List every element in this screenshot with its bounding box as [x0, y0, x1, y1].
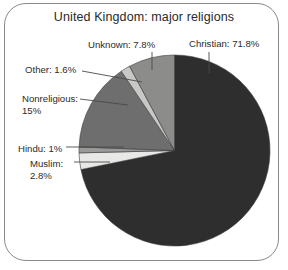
slice-label-muslim-line2: 2.8%	[30, 170, 82, 182]
slice-label-nonreligious-line2: 15%	[22, 105, 94, 117]
slice-label-nonreligious-line1: Nonreligious:	[22, 93, 94, 105]
slice-label-nonreligious: Nonreligious: 15%	[22, 93, 94, 116]
slice-label-christian: Christian: 71.8%	[189, 38, 259, 50]
slice-label-hindu: Hindu: 1%	[18, 143, 62, 155]
slice-label-muslim-line1: Muslim:	[30, 158, 82, 170]
slice-label-other: Other: 1.6%	[25, 64, 76, 76]
slice-label-muslim: Muslim: 2.8%	[30, 158, 82, 181]
slice-label-unknown: Unknown: 7.8%	[88, 39, 155, 51]
pie-slices-group	[79, 55, 270, 246]
pie-chart-figure: United Kingdom: major religions Christia…	[0, 0, 288, 270]
